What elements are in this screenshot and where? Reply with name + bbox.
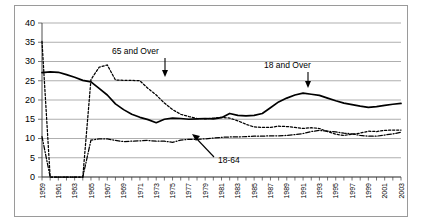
x-tick-label: 1969	[120, 183, 127, 199]
x-tick-label: 1977	[185, 183, 192, 199]
annotation-arrowhead-18-64	[192, 134, 200, 141]
x-tick-label: 1989	[283, 183, 290, 199]
x-tick-label: 1961	[55, 183, 62, 199]
x-tick-label: 1985	[251, 183, 258, 199]
y-tick-label: 15	[25, 114, 35, 124]
y-tick-label: 40	[25, 18, 35, 28]
series-line-18-and-over	[42, 72, 401, 123]
x-tick-label: 2003	[398, 183, 405, 199]
x-tick-label: 1995	[332, 183, 339, 199]
x-tick-label: 1959	[39, 183, 46, 199]
y-tick-label: 25	[25, 76, 35, 86]
series-line-18-64	[42, 130, 401, 177]
y-tick-label: 35	[25, 37, 35, 47]
x-tick-label: 1971	[137, 183, 144, 199]
x-tick-label: 1983	[234, 183, 241, 199]
annotation-arrowhead-65-and-over	[162, 70, 168, 77]
y-tick-label: 10	[25, 133, 35, 143]
y-tick-label: 0	[30, 172, 35, 182]
annotation-label-65-and-over: 65 and Over	[112, 46, 159, 56]
x-tick-label: 1999	[365, 183, 372, 199]
x-axis-ticks	[42, 177, 401, 181]
x-tick-label: 1975	[169, 183, 176, 199]
x-axis-tick-labels: 1959196119631965196719691971197319751977…	[39, 183, 405, 199]
annotation-label-18-and-over: 18 and Over	[264, 60, 311, 70]
x-tick-label: 1981	[218, 183, 225, 199]
annotation-arrow-18-64	[195, 137, 214, 157]
x-tick-label: 1973	[153, 183, 160, 199]
y-tick-label: 30	[25, 56, 35, 66]
x-tick-label: 1991	[300, 183, 307, 199]
y-tick-label: 20	[25, 95, 35, 105]
annotation-label-18-64: 18-64	[218, 155, 240, 165]
x-tick-label: 1979	[202, 183, 209, 199]
annotation-18-and-over: 18 and Over	[264, 60, 311, 88]
x-tick-label: 1987	[267, 183, 274, 199]
gridlines	[38, 23, 401, 177]
x-tick-label: 1963	[71, 183, 78, 199]
x-tick-label: 1997	[349, 183, 356, 199]
annotation-arrowhead-18-and-over	[305, 81, 311, 88]
y-tick-label: 5	[30, 153, 35, 163]
chart-frame: 0510152025303540 19591961196319651967196…	[14, 5, 408, 217]
line-chart: 0510152025303540 19591961196319651967196…	[15, 6, 407, 216]
x-tick-label: 2001	[381, 183, 388, 199]
x-tick-label: 1967	[104, 183, 111, 199]
y-axis-tick-labels: 0510152025303540	[25, 18, 35, 182]
x-tick-label: 1965	[88, 183, 95, 199]
x-tick-label: 1993	[316, 183, 323, 199]
